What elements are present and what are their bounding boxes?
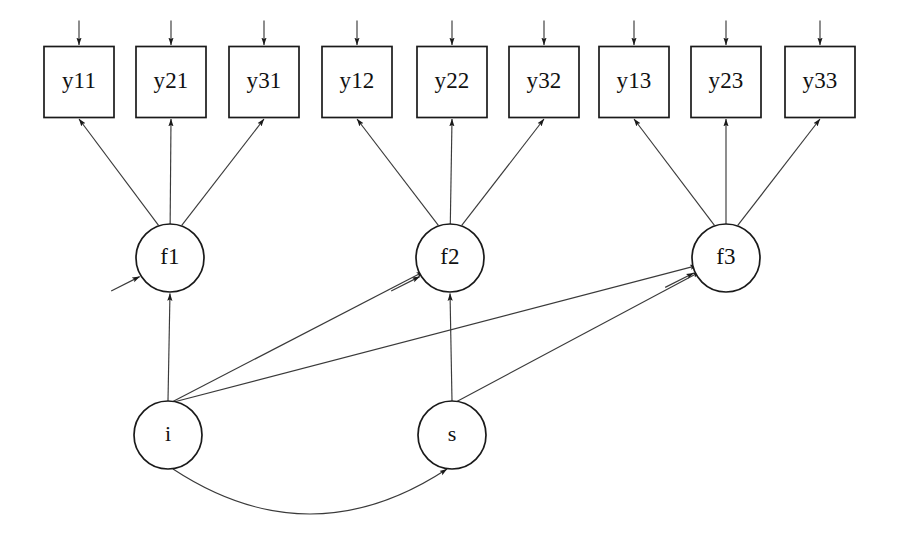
- disturbance-arrow-f3: [665, 273, 694, 287]
- loading-f2-to-y32: [462, 119, 544, 225]
- ellipse-label-f3: f3: [716, 244, 736, 269]
- loading-f1-to-y31: [182, 119, 264, 225]
- loading-f1-to-y11: [79, 119, 159, 225]
- loading-f1-to-y21: [170, 119, 171, 224]
- box-label-y22: y22: [434, 68, 469, 93]
- path-i-to-f2: [170, 272, 424, 403]
- box-label-y23: y23: [708, 68, 743, 93]
- ellipse-label-f1: f1: [160, 244, 180, 269]
- box-label-y32: y32: [526, 68, 561, 93]
- box-label-y31: y31: [246, 68, 281, 93]
- node-layer: y11y21y31y12y22y32y13y23y33f1f2f3is: [44, 47, 855, 470]
- latent-variable-f2[interactable]: f2: [416, 224, 484, 292]
- path-s-to-f3: [454, 272, 700, 403]
- box-label-y21: y21: [153, 68, 188, 93]
- loading-f3-to-y33: [738, 119, 820, 225]
- covariance-i-s: [173, 469, 447, 514]
- observed-variable-y31[interactable]: y31: [229, 47, 299, 118]
- ellipse-label-s: s: [448, 421, 457, 446]
- box-label-y13: y13: [616, 68, 651, 93]
- box-label-y33: y33: [802, 68, 837, 93]
- observed-variable-y32[interactable]: y32: [509, 47, 579, 118]
- path-s-to-f2: [450, 293, 452, 401]
- latent-variable-i[interactable]: i: [134, 401, 202, 469]
- disturbance-arrow-f2: [391, 277, 420, 291]
- observed-variable-y22[interactable]: y22: [417, 47, 487, 118]
- path-i-to-f1: [168, 293, 170, 401]
- latent-variable-f3[interactable]: f3: [692, 224, 760, 292]
- latent-variable-f1[interactable]: f1: [136, 224, 204, 292]
- loading-f2-to-y22: [450, 119, 452, 224]
- loading-f2-to-y12: [357, 119, 438, 225]
- ellipse-label-f2: f2: [440, 244, 460, 269]
- observed-variable-y23[interactable]: y23: [691, 47, 761, 118]
- box-label-y12: y12: [339, 68, 374, 93]
- sem-diagram-canvas: y11y21y31y12y22y32y13y23y33f1f2f3is: [0, 0, 898, 542]
- observed-variable-y11[interactable]: y11: [44, 47, 114, 118]
- observed-variable-y21[interactable]: y21: [136, 47, 206, 118]
- loading-f3-to-y13: [634, 119, 714, 225]
- latent-variable-s[interactable]: s: [418, 401, 486, 469]
- observed-variable-y13[interactable]: y13: [599, 47, 669, 118]
- observed-variable-y33[interactable]: y33: [785, 47, 855, 118]
- disturbance-arrow-f1: [111, 277, 140, 291]
- observed-variable-y12[interactable]: y12: [322, 47, 392, 118]
- sem-diagram-svg: y11y21y31y12y22y32y13y23y33f1f2f3is: [0, 0, 898, 542]
- box-label-y11: y11: [62, 68, 96, 93]
- ellipse-label-i: i: [165, 421, 171, 446]
